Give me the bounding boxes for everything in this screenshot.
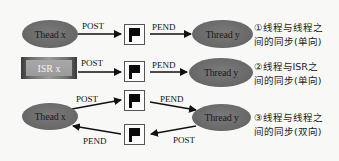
node-label: Thead x (34, 29, 65, 40)
node-label: Thread y (204, 112, 238, 123)
semaphore-row1 (124, 24, 145, 45)
semaphore-row3-top (124, 90, 145, 111)
isr-x-node: ISR x (21, 57, 77, 79)
node-label: Thead x (34, 111, 65, 122)
post-label-row3-bottom: POST (173, 136, 195, 145)
description-line1: ②线程与ISR之 (254, 60, 321, 74)
pend-label-row1: PEND (152, 23, 176, 32)
node-label: ISR x (37, 63, 60, 74)
thread-y-node-row3: Thread y (192, 104, 251, 131)
thread-y-node-row2: Thread y (189, 58, 253, 87)
pend-label-row3-bottom: PEND (83, 137, 107, 146)
description-line1: ③线程与线程之 (254, 111, 323, 125)
post-label-row2: POST (81, 59, 103, 68)
node-label: Thread y (204, 67, 238, 78)
semaphore-row2 (124, 61, 145, 82)
description-row2: ②线程与ISR之 间的同步(单向) (254, 60, 321, 88)
thread-y-node-row1: Thread y (192, 20, 253, 48)
post-label-row3-top: POST (76, 95, 98, 104)
description-line1: ①线程与线程之 (254, 21, 323, 35)
description-row3: ③线程与线程之 间的同步(双向) (254, 111, 323, 139)
sync-diagram: Thead x POST PEND Thread y ①线程与线程之 间的同步(… (0, 0, 339, 161)
pend-label-row2: PEND (152, 61, 176, 70)
arrow-row3-post-bottom (151, 126, 196, 134)
description-line2: 间的同步(单向) (254, 35, 323, 49)
semaphore-row3-bottom (124, 124, 145, 145)
description-line2: 间的同步(单向) (254, 74, 321, 88)
post-label-row1: POST (82, 22, 104, 31)
description-row1: ①线程与线程之 间的同步(单向) (254, 21, 323, 49)
thread-x-node-row3: Thead x (22, 103, 78, 130)
thread-x-node-row1: Thead x (22, 20, 78, 48)
node-label: Thread y (205, 29, 239, 40)
description-line2: 间的同步(双向) (254, 125, 323, 139)
arrow-row3-pend-bottom (73, 126, 121, 134)
pend-label-row3-top: PEND (160, 95, 184, 104)
